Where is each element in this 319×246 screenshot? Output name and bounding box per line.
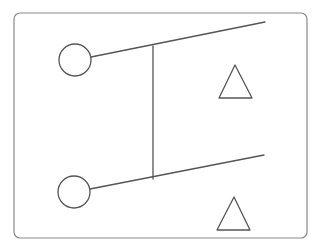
diagram-frame <box>14 13 307 238</box>
diagram-canvas <box>0 0 319 246</box>
